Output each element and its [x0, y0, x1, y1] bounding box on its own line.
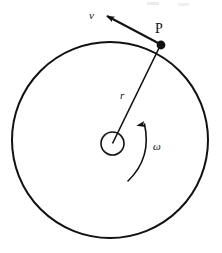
scan-artifacts	[147, 2, 189, 6]
point-p-label: P	[155, 21, 163, 36]
angular-velocity-label: ω	[153, 140, 161, 152]
radius-label: r	[120, 89, 125, 101]
diagram-canvas: v P r ω	[0, 0, 222, 253]
velocity-label: v	[89, 9, 94, 21]
circular-motion-diagram: v P r ω	[0, 0, 222, 253]
particle-point-p	[157, 41, 166, 50]
angular-velocity-arc	[128, 124, 146, 181]
velocity-vector	[107, 16, 160, 44]
